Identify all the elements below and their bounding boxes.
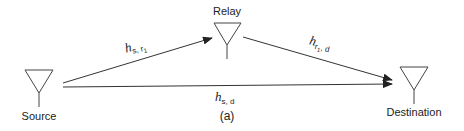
relay-label: Relay: [213, 6, 241, 17]
edge-source-destination: [63, 84, 392, 87]
source-label: Source: [22, 111, 57, 122]
destination-label: Destination: [386, 107, 441, 118]
destination-antenna-icon: [400, 67, 428, 104]
relay-antenna-icon: [214, 23, 241, 59]
channel-label-source-destination: hs, d: [215, 90, 234, 106]
figure-caption: (a): [220, 110, 235, 122]
source-antenna-icon: [25, 70, 53, 107]
